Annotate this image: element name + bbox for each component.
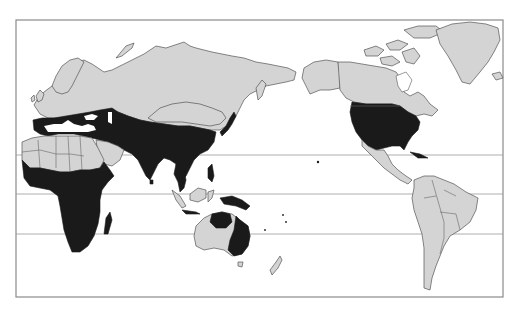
novaya-zemlya bbox=[116, 43, 134, 58]
tasmania bbox=[238, 262, 243, 267]
alaska bbox=[302, 60, 340, 94]
madagascar bbox=[104, 212, 112, 234]
new-zealand bbox=[270, 256, 282, 275]
pacific-island bbox=[282, 214, 284, 216]
borneo bbox=[190, 188, 206, 202]
sumatra bbox=[172, 190, 186, 208]
caspian-sea bbox=[108, 112, 112, 124]
arctic-archipelago-1 bbox=[364, 46, 384, 56]
pacific-island-hawaii bbox=[317, 161, 319, 163]
java bbox=[182, 210, 200, 214]
iceland bbox=[492, 72, 503, 80]
map-canvas bbox=[0, 0, 519, 311]
sulawesi bbox=[208, 190, 214, 202]
pacific-island bbox=[285, 221, 287, 223]
new-guinea bbox=[220, 196, 250, 210]
baffin-island bbox=[402, 48, 420, 64]
greenland bbox=[436, 22, 500, 84]
south-america bbox=[412, 176, 478, 290]
sub-saharan-africa bbox=[22, 160, 114, 252]
ireland bbox=[31, 95, 35, 102]
sri-lanka bbox=[150, 180, 153, 184]
philippines bbox=[208, 164, 214, 182]
pacific-island bbox=[264, 229, 266, 231]
world-map bbox=[0, 0, 519, 311]
arctic-archipelago-2 bbox=[386, 40, 408, 50]
arctic-archipelago-3 bbox=[380, 56, 400, 66]
northern-australia bbox=[210, 212, 232, 228]
